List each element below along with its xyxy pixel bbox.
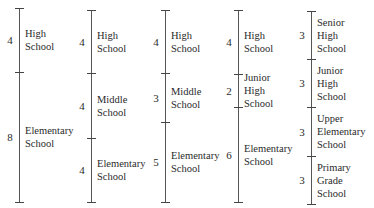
school-level-label: JuniorHighSchool [317,64,346,103]
school-level-label: SeniorHighSchool [317,16,346,55]
label-line: Primary [317,161,351,174]
tick-mark [307,11,316,12]
plan-column-5: 3SeniorHighSchool3JuniorHighSchool3Upper… [0,0,374,208]
label-line: Senior [317,16,346,29]
label-line: Grade [317,174,351,187]
school-level-label: PrimaryGradeSchool [317,161,351,200]
tick-mark [307,107,316,108]
tick-mark [307,156,316,157]
label-line: Elementary [317,125,365,138]
tick-mark [307,204,316,205]
label-line: Upper [317,112,365,125]
label-line: School [317,42,346,55]
years-count: 3 [297,174,307,186]
years-count: 3 [297,29,307,41]
label-line: School [317,138,365,151]
label-line: School [317,90,346,103]
label-line: High [317,29,346,42]
school-level-label: UpperElementarySchool [317,112,365,151]
label-line: School [317,187,351,200]
years-count: 3 [297,77,307,89]
years-count: 3 [297,126,307,138]
tick-mark [307,59,316,60]
label-line: High [317,77,346,90]
label-line: Junior [317,64,346,77]
